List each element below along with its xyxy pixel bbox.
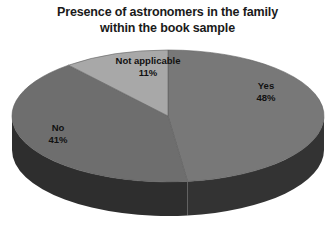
slice-label-no: No 41% <box>30 122 86 145</box>
slice-label-yes: Yes 48% <box>236 80 296 103</box>
slice-label-no-value: 41% <box>30 134 86 146</box>
pie-graphic <box>0 0 335 225</box>
slice-label-not-applicable-value: 11% <box>96 67 200 79</box>
slice-label-not-applicable: Not applicable 11% <box>96 55 200 78</box>
slice-label-yes-name: Yes <box>236 80 296 92</box>
slice-label-not-applicable-name: Not applicable <box>96 55 200 67</box>
pie-chart-figure: Presence of astronomers in the family wi… <box>0 0 335 225</box>
slice-label-yes-value: 48% <box>236 92 296 104</box>
slice-label-no-name: No <box>30 122 86 134</box>
